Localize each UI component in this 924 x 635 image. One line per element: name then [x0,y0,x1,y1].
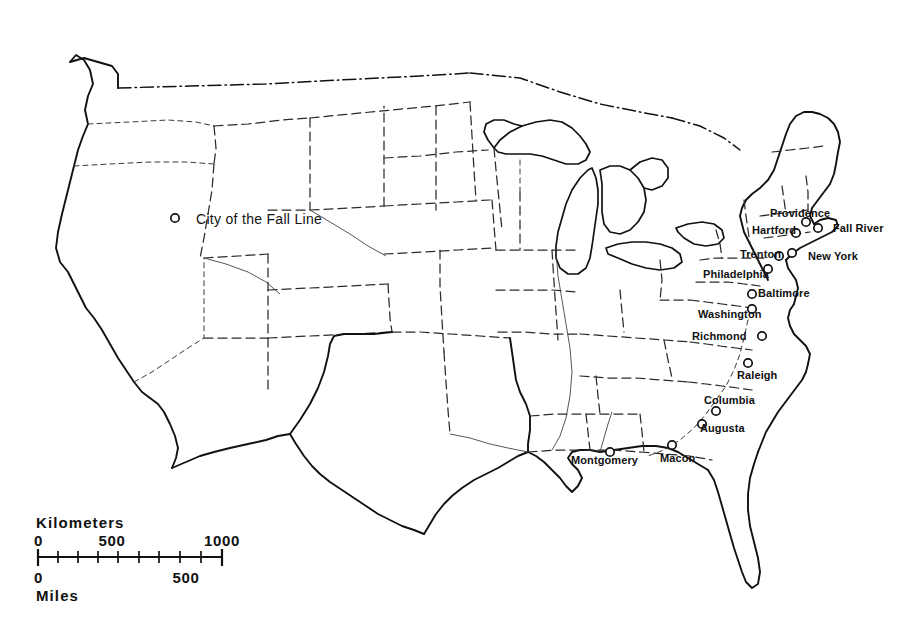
city-marker-icon[interactable] [668,441,676,449]
city-marker-icon[interactable] [712,407,720,415]
map-canvas: City of the Fall Line ProvidenceHartford… [0,0,924,635]
city-label: Trenton [740,248,781,260]
legend-marker-icon [171,214,179,222]
city-label: Philadelphia [703,268,770,280]
city-washington[interactable]: Washington [698,305,762,320]
legend: City of the Fall Line [171,211,322,227]
city-marker-icon[interactable] [814,224,822,232]
city-hartford[interactable]: Hartford [752,224,800,237]
city-new-york[interactable]: New York [788,249,859,262]
city-augusta[interactable]: Augusta [698,420,746,434]
city-label: Providence [770,207,830,219]
scale-bar: Kilometers 0 500 1000 0 500 Miles [34,514,240,604]
scale-km-tick-0: 0 [34,532,43,549]
state-boundaries [74,102,824,460]
city-marker-icon[interactable] [748,290,756,298]
city-baltimore[interactable]: Baltimore [748,287,810,299]
rivers [204,210,612,452]
city-trenton[interactable]: Trenton [740,248,783,260]
city-philadelphia[interactable]: Philadelphia [703,265,772,280]
city-label: Raleigh [737,369,778,381]
city-macon[interactable]: Macon [660,441,696,464]
scale-miles-title: Miles [36,587,79,604]
city-label: Montgomery [571,454,639,466]
city-richmond[interactable]: Richmond [692,330,766,342]
city-marker-icon[interactable] [788,249,796,257]
national-outline [56,55,840,588]
city-label: Augusta [700,422,745,434]
city-fall-river[interactable]: Fall River [814,222,884,234]
scale-km-tick-500: 500 [99,532,126,549]
city-label: New York [808,250,859,262]
city-label: Richmond [692,330,747,342]
fall-line-map: City of the Fall Line ProvidenceHartford… [0,0,924,635]
legend-label: City of the Fall Line [196,211,322,227]
city-label: Columbia [704,394,756,406]
scale-mile-tick-0: 0 [34,569,43,586]
city-marker-icon[interactable] [758,332,766,340]
city-columbia[interactable]: Columbia [704,394,756,415]
city-raleigh[interactable]: Raleigh [737,359,778,381]
city-marker-icon[interactable] [802,218,810,226]
city-label: Fall River [833,222,884,234]
national-border-canada [118,73,740,150]
city-layer: ProvidenceHartfordFall RiverTrentonNew Y… [571,207,884,466]
city-label: Hartford [752,224,796,236]
scale-mile-tick-500: 500 [173,569,200,586]
scale-kilometers-title: Kilometers [36,514,125,531]
city-marker-icon[interactable] [744,359,752,367]
scale-km-tick-1000: 1000 [204,532,240,549]
city-label: Washington [698,308,762,320]
city-label: Baltimore [758,287,810,299]
city-label: Macon [660,452,696,464]
